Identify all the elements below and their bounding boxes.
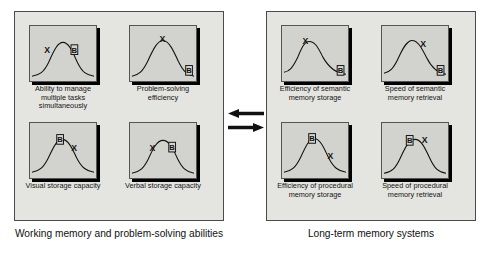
panel-multitasking: X B Ability to manage multiple tasks sim… — [29, 25, 97, 111]
marker-x-glyph: X — [422, 135, 428, 145]
arrow-pointing-right-icon — [228, 118, 264, 127]
panel-label: Verbal storage capacity — [125, 182, 201, 191]
group-box-long-term-memory: X B Efficiency of semantic memory storag… — [266, 11, 476, 221]
panel-semantic-retrieval-speed: X B Speed of semantic memory retrieval — [381, 25, 449, 102]
chart-verbal-storage-capacity: X B — [129, 122, 197, 179]
panel-verbal-storage-capacity: X B Verbal storage capacity — [129, 122, 197, 191]
marker-b-glyph: B — [57, 135, 63, 144]
panel-plot: B X — [381, 122, 449, 179]
panel-plot: X B — [129, 25, 197, 82]
marker-x-glyph: X — [328, 151, 334, 161]
chart-multitasking: X B — [29, 25, 97, 82]
marker-x-glyph: X — [149, 143, 155, 153]
caption-long-term-memory: Long-term memory systems — [262, 228, 480, 240]
marker-b-glyph: B — [169, 143, 175, 152]
marker-b-glyph: B — [438, 66, 444, 75]
memory-systems-diagram: X B Ability to manage multiple tasks sim… — [0, 0, 490, 270]
panel-semantic-storage-efficiency: X B Efficiency of semantic memory storag… — [281, 25, 349, 102]
chart-procedural-storage-efficiency: B X — [281, 122, 349, 179]
marker-x-glyph: X — [420, 39, 426, 49]
panel-label: Problem-solving efficiency — [125, 85, 201, 102]
marker-x-glyph: X — [44, 45, 50, 55]
chart-visual-storage-capacity: B X — [29, 122, 97, 179]
marker-x-glyph: X — [302, 36, 308, 46]
panel-label: Efficiency of semantic memory storage — [277, 85, 353, 102]
chart-procedural-retrieval-speed: B X — [381, 122, 449, 179]
marker-x-glyph: X — [160, 34, 166, 44]
marker-b-glyph: B — [407, 136, 413, 145]
panel-procedural-storage-efficiency: B X Efficiency of procedural memory stor… — [281, 122, 349, 199]
panel-plot: X B — [29, 25, 97, 82]
panel-plot: X B — [129, 122, 197, 179]
panel-plot: B X — [29, 122, 97, 179]
panel-label: Ability to manage multiple tasks simulta… — [25, 85, 101, 111]
panel-procedural-retrieval-speed: B X Speed of procedural memory retrieval — [381, 122, 449, 199]
marker-x-glyph: X — [71, 143, 77, 153]
panel-label: Efficiency of procedural memory storage — [277, 182, 353, 199]
panel-label: Speed of semantic memory retrieval — [377, 85, 453, 102]
marker-b-glyph: B — [186, 66, 192, 75]
panel-visual-storage-capacity: B X Visual storage capacity — [29, 122, 97, 191]
panel-label: Speed of procedural memory retrieval — [377, 182, 453, 199]
chart-semantic-retrieval-speed: X B — [381, 25, 449, 82]
chart-semantic-storage-efficiency: X B — [281, 25, 349, 82]
panel-problem-solving-efficiency: X B Problem-solving efficiency — [129, 25, 197, 102]
chart-problem-solving-efficiency: X B — [129, 25, 197, 82]
marker-b-glyph: B — [309, 134, 315, 143]
panel-plot: B X — [281, 122, 349, 179]
panel-plot: X B — [381, 25, 449, 82]
panel-label: Visual storage capacity — [25, 182, 101, 191]
panel-plot: X B — [281, 25, 349, 82]
caption-working-memory: Working memory and problem-solving abili… — [6, 228, 232, 240]
marker-b-glyph: B — [338, 66, 344, 75]
group-box-working-memory: X B Ability to manage multiple tasks sim… — [14, 11, 224, 221]
marker-b-glyph: B — [72, 46, 78, 55]
arrow-pointing-left-icon — [228, 104, 264, 113]
bidirectional-arrows — [228, 104, 264, 134]
